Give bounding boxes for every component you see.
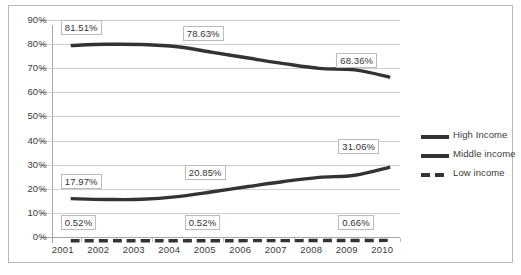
legend-swatch-middle-income [421, 154, 449, 158]
data-label: 17.97% [61, 174, 102, 189]
legend-swatch-low-income [421, 173, 449, 177]
data-label: 81.51% [61, 20, 102, 35]
chart-legend: High Income Middle income Low income [421, 128, 517, 185]
data-label: 20.85% [185, 165, 226, 180]
legend-item-high-income[interactable]: High Income [421, 128, 517, 147]
legend-item-low-income[interactable]: Low income [421, 166, 517, 185]
legend-label-high-income: High Income [453, 129, 507, 140]
legend-item-middle-income[interactable]: Middle income [421, 147, 517, 166]
chart-frame: 0%10%20%30%40%50%60%70%80%90% 2001200220… [8, 5, 513, 263]
data-label: 68.36% [336, 53, 377, 68]
legend-label-middle-income: Middle income [453, 148, 516, 159]
legend-label-low-income: Low income [453, 167, 505, 178]
data-label: 0.66% [338, 215, 373, 230]
legend-swatch-high-income [421, 135, 449, 139]
data-label: 31.06% [338, 139, 379, 154]
data-label: 0.52% [61, 215, 96, 230]
series-line-middle-income [71, 167, 391, 200]
data-label: 0.52% [185, 215, 220, 230]
data-label: 78.63% [183, 26, 224, 41]
line-chart: 0%10%20%30%40%50%60%70%80%90% 2001200220… [0, 0, 521, 275]
